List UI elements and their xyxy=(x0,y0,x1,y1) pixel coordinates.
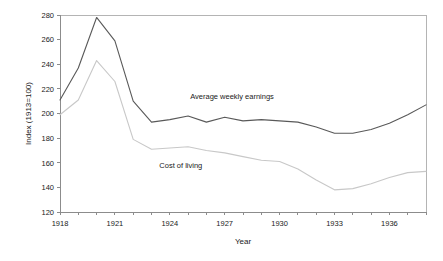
x-axis-tick-label: 1927 xyxy=(216,219,233,228)
y-axis-tick-label: 140 xyxy=(41,183,54,192)
y-axis-tick-label: 280 xyxy=(41,11,54,20)
y-axis-title: Index (1913=100) xyxy=(24,82,33,145)
x-axis-tick-label: 1918 xyxy=(52,219,69,228)
y-axis-tick-label: 120 xyxy=(41,208,54,217)
x-axis-tick-label: 1936 xyxy=(381,219,398,228)
x-axis-tick-label: 1933 xyxy=(326,219,343,228)
series-line-2 xyxy=(60,61,426,190)
y-axis-tick-label: 220 xyxy=(41,85,54,94)
x-axis-tick-label: 1924 xyxy=(161,219,178,228)
y-axis-tick-label: 240 xyxy=(41,60,54,69)
series-line-1 xyxy=(60,17,426,133)
y-axis-tick-label: 160 xyxy=(41,159,54,168)
plot-frame xyxy=(60,15,426,212)
x-axis-tick-label: 1921 xyxy=(107,219,124,228)
line-chart: 1201401601802002202402602801918192119241… xyxy=(0,0,443,261)
y-axis-tick-label: 260 xyxy=(41,35,54,44)
chart-figure: 1201401601802002202402602801918192119241… xyxy=(0,0,443,261)
series-label-1: Average weekly earnings xyxy=(190,92,274,101)
x-axis-tick-label: 1930 xyxy=(271,219,288,228)
y-axis-tick-label: 200 xyxy=(41,109,54,118)
x-axis-title: Year xyxy=(235,237,252,246)
y-axis-tick-label: 180 xyxy=(41,134,54,143)
series-label-2: Cost of living xyxy=(159,161,202,170)
